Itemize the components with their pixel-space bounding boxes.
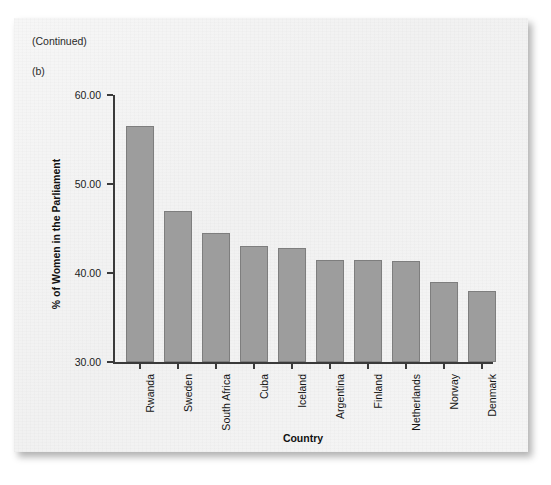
x-tick-label: Rwanda (144, 374, 156, 413)
x-tick-mark (291, 363, 293, 369)
bar (126, 126, 154, 362)
x-axis-line (113, 362, 493, 364)
y-axis-title: % of Women in the Parliament (50, 144, 62, 324)
x-tick-label: Denmark (486, 374, 498, 417)
x-tick-label: Cuba (258, 374, 270, 399)
x-tick-label: Iceland (296, 374, 308, 408)
y-tick-label: 30.00 (75, 356, 101, 368)
x-tick-label: South Africa (220, 374, 232, 431)
bar (316, 260, 344, 362)
x-tick-label: Norway (448, 374, 460, 410)
bar-series (113, 95, 493, 362)
bar (240, 246, 268, 362)
bar-chart: 30.0040.0050.0060.00 % of Women in the P… (14, 18, 528, 452)
x-tick-mark (481, 363, 483, 369)
x-tick-mark (253, 363, 255, 369)
bar (202, 233, 230, 362)
bar (278, 248, 306, 362)
x-tick-label: Argentina (334, 374, 346, 419)
x-tick-mark (405, 363, 407, 369)
bar (392, 261, 420, 362)
running-head: AN INTRODUCTION TO STATISTICAL CONCEPTS (0, 0, 551, 3)
x-tick-mark (139, 363, 141, 369)
x-tick-mark (215, 363, 217, 369)
bar (430, 282, 458, 362)
x-tick-mark (367, 363, 369, 369)
y-tick-label: 50.00 (75, 178, 101, 190)
bar (164, 211, 192, 362)
x-tick-mark (177, 363, 179, 369)
x-tick-label: Sweden (182, 374, 194, 412)
x-tick-mark (329, 363, 331, 369)
x-tick-label: Netherlands (410, 374, 422, 431)
x-tick-mark (443, 363, 445, 369)
y-tick-label: 40.00 (75, 267, 101, 279)
y-tick-label: 60.00 (75, 89, 101, 101)
bar (354, 260, 382, 362)
bar (468, 291, 496, 362)
figure-panel: (Continued) (b) 30.0040.0050.0060.00 % o… (14, 18, 528, 452)
x-tick-label: Finland (372, 374, 384, 408)
x-axis-title: Country (113, 432, 493, 444)
